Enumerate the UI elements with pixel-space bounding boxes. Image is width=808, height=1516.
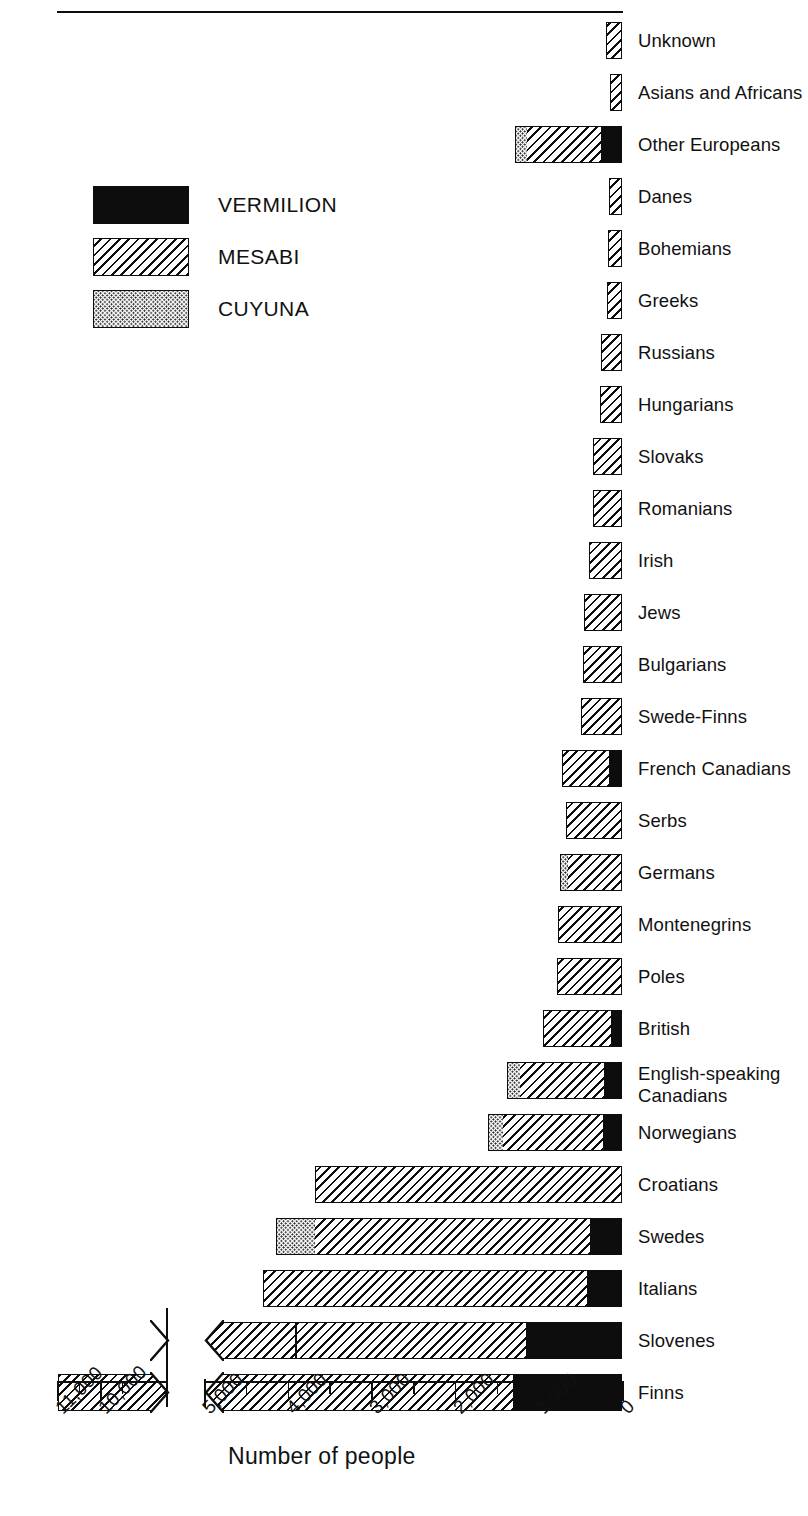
legend-swatch-mesabi [93, 238, 189, 276]
bar-french-canadians[interactable] [562, 750, 622, 787]
legend-swatch-vermilion [93, 186, 189, 224]
bar-finns-break-continuation[interactable] [295, 1322, 297, 1359]
segment-vermilion [609, 751, 622, 786]
x-tick-label-0: 0 [616, 1395, 639, 1418]
x-axis-title: Number of people [228, 1443, 416, 1470]
segment-mesabi [610, 179, 622, 214]
category-label-slovaks: Slovaks [638, 446, 703, 468]
bar-other-europeans[interactable] [515, 126, 622, 163]
segment-mesabi [594, 439, 622, 474]
segment-mesabi [205, 1323, 526, 1358]
category-label-english-speaking-canadians: English-speaking Canadians [638, 1063, 781, 1107]
segment-mesabi [582, 699, 622, 734]
category-label-asians-and-africans: Asians and Africans [638, 82, 802, 104]
segment-mesabi [527, 127, 601, 162]
segment-mesabi [315, 1219, 589, 1254]
segment-mesabi [567, 803, 622, 838]
segment-mesabi [316, 1167, 622, 1202]
bar-germans[interactable] [560, 854, 622, 891]
bar-irish[interactable] [589, 542, 622, 579]
category-label-italians: Italians [638, 1278, 697, 1300]
bar-croatians[interactable] [315, 1166, 622, 1203]
segment-vermilion [590, 1219, 622, 1254]
bar-jews[interactable] [584, 594, 622, 631]
bar-italians[interactable] [263, 1270, 622, 1307]
axis-tick [580, 1383, 582, 1394]
axis-tick [79, 1383, 81, 1394]
segment-mesabi [602, 335, 622, 370]
bar-british[interactable] [543, 1010, 622, 1047]
category-label-germans: Germans [638, 862, 715, 884]
segment-mesabi [609, 231, 622, 266]
legend-label-cuyuna: CUYUNA [218, 297, 309, 321]
bar-poles[interactable] [557, 958, 622, 995]
legend-swatch-cuyuna [93, 290, 189, 328]
segment-mesabi [590, 543, 622, 578]
axis-break-rule [166, 1379, 168, 1407]
category-label-norwegians: Norwegians [638, 1122, 737, 1144]
axis-tick [413, 1383, 415, 1394]
category-label-finns: Finns [638, 1382, 684, 1404]
bar-asians-and-africans[interactable] [610, 74, 622, 111]
axis-break-rule [166, 1308, 168, 1382]
bar-danes[interactable] [609, 178, 622, 215]
category-label-russians: Russians [638, 342, 715, 364]
segment-vermilion [587, 1271, 622, 1306]
bar-montenegrins[interactable] [558, 906, 622, 943]
segment-mesabi [607, 23, 622, 58]
bar-swede-finns[interactable] [581, 698, 622, 735]
segment-cuyuna [516, 127, 527, 162]
category-label-swedes: Swedes [638, 1226, 704, 1248]
bar-bulgarians[interactable] [583, 646, 622, 683]
category-label-slovenes: Slovenes [638, 1330, 715, 1352]
segment-mesabi [594, 491, 622, 526]
legend-label-vermilion: VERMILION [218, 193, 337, 217]
category-label-swede-finns: Swede-Finns [638, 706, 747, 728]
category-label-croatians: Croatians [638, 1174, 718, 1196]
axis-break-zigzag [150, 1372, 176, 1413]
axis-break-zigzag [198, 1320, 224, 1361]
segment-mesabi [568, 855, 622, 890]
category-label-unknown: Unknown [638, 30, 716, 52]
axis-tick [122, 1383, 124, 1394]
segment-cuyuna [561, 855, 568, 890]
category-label-romanians: Romanians [638, 498, 732, 520]
bar-russians[interactable] [601, 334, 622, 371]
chart-canvas: UnknownAsians and AfricansOther European… [0, 0, 808, 1516]
axis-tick [246, 1383, 248, 1394]
bar-english-speaking-canadians[interactable] [507, 1062, 622, 1099]
segment-vermilion [601, 127, 622, 162]
segment-mesabi [584, 647, 622, 682]
segment-mesabi [601, 387, 622, 422]
category-label-other-europeans: Other Europeans [638, 134, 780, 156]
segment-mesabi [544, 1011, 611, 1046]
bar-unknown[interactable] [606, 22, 622, 59]
category-label-irish: Irish [638, 550, 673, 572]
bar-greeks[interactable] [607, 282, 622, 319]
category-label-hungarians: Hungarians [638, 394, 734, 416]
legend-label-mesabi: MESABI [218, 245, 300, 269]
chart-top-rule [57, 11, 623, 13]
bar-slovaks[interactable] [593, 438, 622, 475]
bar-swedes[interactable] [276, 1218, 622, 1255]
category-label-serbs: Serbs [638, 810, 687, 832]
category-label-danes: Danes [638, 186, 692, 208]
axis-tick [497, 1383, 499, 1394]
bar-bohemians[interactable] [608, 230, 622, 267]
segment-cuyuna [489, 1115, 503, 1150]
segment-vermilion [604, 1063, 622, 1098]
segment-mesabi [264, 1271, 588, 1306]
category-label-bohemians: Bohemians [638, 238, 731, 260]
segment-mesabi [608, 283, 622, 318]
segment-mesabi [520, 1063, 604, 1098]
bar-slovenes[interactable] [204, 1322, 622, 1359]
bar-hungarians[interactable] [600, 386, 622, 423]
category-label-jews: Jews [638, 602, 681, 624]
bar-romanians[interactable] [593, 490, 622, 527]
bar-serbs[interactable] [566, 802, 622, 839]
segment-mesabi [585, 595, 622, 630]
segment-mesabi [563, 751, 609, 786]
axis-tick [329, 1383, 331, 1394]
segment-cuyuna [508, 1063, 520, 1098]
bar-norwegians[interactable] [488, 1114, 622, 1151]
